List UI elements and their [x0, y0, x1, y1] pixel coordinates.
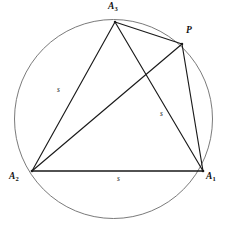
- side-label-a3-a2: s: [57, 86, 60, 94]
- vertex-label-a2: A2: [9, 172, 19, 182]
- segment-a3-a2: [32, 22, 115, 171]
- geometry-figure: A3 P A1 A2 s s s: [0, 0, 232, 231]
- vertex-label-a1-base: A: [206, 171, 212, 181]
- segment-a3-p: [115, 22, 182, 44]
- segment-a3-a1: [115, 22, 203, 171]
- vertex-label-p: P: [186, 26, 192, 36]
- vertex-label-a3-base: A: [108, 1, 114, 11]
- vertex-dot-a2: [31, 170, 34, 173]
- segment-p-a1: [182, 44, 203, 171]
- vertex-dot-a1: [202, 170, 205, 173]
- figure-canvas: [0, 0, 232, 231]
- vertex-dot-a3: [114, 21, 117, 24]
- side-label-a3-a1: s: [160, 110, 163, 118]
- vertex-label-a3: A3: [108, 2, 118, 12]
- vertex-label-a1-subscript: 1: [213, 175, 216, 182]
- side-label-a2-a1: s: [117, 175, 120, 183]
- vertex-label-p-base: P: [186, 25, 192, 35]
- vertex-label-a3-subscript: 3: [115, 5, 118, 12]
- vertex-label-a1: A1: [206, 172, 216, 182]
- vertex-dot-p: [181, 43, 184, 46]
- vertex-label-a2-subscript: 2: [16, 175, 19, 182]
- segment-p-a2: [32, 44, 182, 171]
- vertex-label-a2-base: A: [9, 171, 15, 181]
